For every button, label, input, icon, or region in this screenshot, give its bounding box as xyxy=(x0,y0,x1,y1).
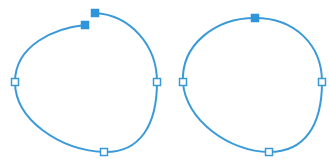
anchor-point-icon[interactable] xyxy=(154,79,161,86)
closed-path-group[interactable] xyxy=(180,15,326,156)
anchor-point-icon[interactable] xyxy=(12,79,19,86)
selected-anchor-point-icon[interactable] xyxy=(92,10,99,17)
selected-anchor-point-icon[interactable] xyxy=(252,15,259,22)
path-diagram-canvas xyxy=(0,0,329,163)
closed-path-curve[interactable] xyxy=(183,18,322,152)
open-path-group[interactable] xyxy=(12,10,161,156)
open-path-curve[interactable] xyxy=(15,13,157,152)
anchor-point-icon[interactable] xyxy=(101,149,108,156)
selected-anchor-point-icon[interactable] xyxy=(82,22,89,29)
anchor-point-icon[interactable] xyxy=(180,79,187,86)
anchor-point-icon[interactable] xyxy=(319,79,326,86)
anchor-point-icon[interactable] xyxy=(266,149,273,156)
